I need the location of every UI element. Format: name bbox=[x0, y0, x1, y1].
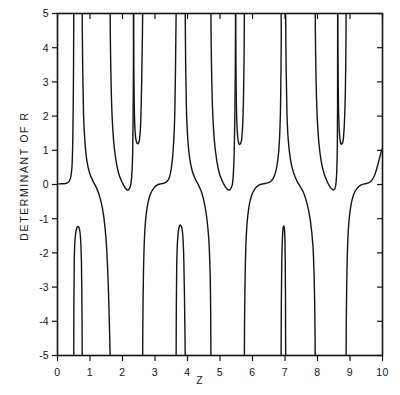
svg-text:0: 0 bbox=[43, 178, 49, 190]
svg-text:-4: -4 bbox=[39, 315, 48, 327]
svg-text:-5: -5 bbox=[39, 349, 48, 361]
axis-ticks bbox=[52, 14, 383, 362]
svg-text:3: 3 bbox=[43, 76, 49, 88]
y-axis-label: DETERMINANT OF R bbox=[18, 96, 30, 256]
x-axis-label: Z bbox=[0, 374, 400, 386]
svg-text:2: 2 bbox=[43, 110, 49, 122]
axes-frame bbox=[58, 14, 383, 356]
y-tick-labels: -5-4-3-2-1012345 bbox=[39, 7, 49, 361]
determinant-of-r-plot: 012345678910 -5-4-3-2-1012345 bbox=[0, 0, 400, 395]
chart-figure: 012345678910 -5-4-3-2-1012345 DETERMINAN… bbox=[0, 0, 400, 395]
svg-text:5: 5 bbox=[43, 7, 49, 19]
svg-text:-3: -3 bbox=[39, 281, 48, 293]
svg-text:-1: -1 bbox=[39, 213, 48, 225]
data-curves bbox=[58, 14, 383, 356]
svg-text:4: 4 bbox=[43, 42, 49, 54]
svg-text:-2: -2 bbox=[39, 247, 48, 259]
svg-text:1: 1 bbox=[43, 144, 49, 156]
